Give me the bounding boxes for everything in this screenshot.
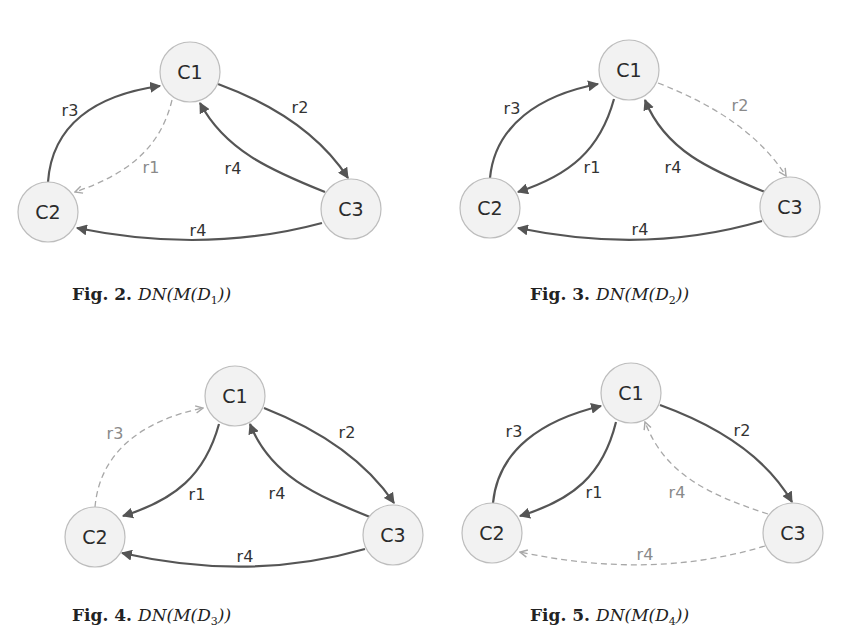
node-c1: C1 — [160, 42, 220, 102]
edge-label: r2 — [292, 98, 309, 117]
node-label: C2 — [477, 197, 502, 219]
caption-math: DN(M(D4)) — [596, 605, 689, 625]
node-label: C1 — [618, 382, 643, 404]
node-label: C3 — [777, 196, 802, 218]
node-label: C3 — [780, 522, 805, 544]
node-label: C2 — [82, 526, 107, 548]
edge-label: r3 — [504, 99, 521, 118]
edge-label: r3 — [107, 424, 124, 443]
caption-math: DN(M(D3)) — [138, 605, 231, 625]
node-c1: C1 — [599, 40, 659, 100]
node-c1: C1 — [601, 363, 661, 423]
figure-fig2: r3r1r2r4r4C1C2C3 — [18, 42, 381, 242]
caption-math-subscript: 2 — [669, 294, 676, 307]
edge-label: r4 — [632, 220, 649, 239]
edge-label: r4 — [669, 483, 686, 502]
node-label: C3 — [380, 524, 405, 546]
node-c2: C2 — [460, 178, 520, 238]
caption-math-subscript: 1 — [211, 294, 218, 307]
node-c2: C2 — [65, 507, 125, 567]
caption-fig4: Fig. 4.DN(M(D3)) — [72, 605, 231, 628]
edge-label: r1 — [189, 485, 206, 504]
edge-label: r4 — [190, 221, 207, 240]
caption-figure-number: Fig. 3. — [530, 284, 590, 304]
edge-label: r3 — [506, 422, 523, 441]
edge-label: r1 — [143, 158, 160, 177]
node-c3: C3 — [321, 179, 381, 239]
edge-r1-c1-to-c2 — [518, 99, 614, 192]
node-label: C2 — [35, 201, 60, 223]
caption-figure-number: Fig. 5. — [530, 605, 590, 625]
node-label: C1 — [616, 59, 641, 81]
caption-math-suffix: )) — [218, 284, 231, 304]
edge-label: r3 — [62, 101, 79, 120]
node-c3: C3 — [760, 177, 820, 237]
caption-math: DN(M(D1)) — [138, 284, 231, 304]
caption-math-subscript: 3 — [211, 615, 218, 628]
node-c3: C3 — [763, 503, 823, 563]
edge-label: r4 — [269, 484, 286, 503]
node-label: C3 — [338, 198, 363, 220]
figure-fig5: r3r1r2r4r4C1C2C3 — [462, 363, 823, 565]
edge-label: r1 — [584, 158, 601, 177]
edge-label: r1 — [586, 483, 603, 502]
node-c2: C2 — [18, 182, 78, 242]
node-c3: C3 — [363, 505, 423, 565]
caption-math-subscript: 4 — [669, 615, 676, 628]
node-label: C1 — [222, 385, 247, 407]
edge-label: r2 — [339, 423, 356, 442]
edge-label: r4 — [237, 547, 254, 566]
caption-fig5: Fig. 5.DN(M(D4)) — [530, 605, 689, 628]
figure-fig3: r3r1r2r4r4C1C2C3 — [460, 40, 820, 240]
caption-math-suffix: )) — [676, 284, 689, 304]
caption-figure-number: Fig. 2. — [72, 284, 132, 304]
caption-math: DN(M(D2)) — [596, 284, 689, 304]
caption-math-prefix: DN(M(D — [138, 284, 211, 304]
caption-fig2: Fig. 2.DN(M(D1)) — [72, 284, 231, 307]
edge-label: r4 — [665, 158, 682, 177]
node-label: C2 — [479, 522, 504, 544]
figure-fig4: r3r1r2r4r4C1C2C3 — [65, 366, 423, 567]
diagram-canvas: r3r1r2r4r4C1C2C3r3r1r2r4r4C1C2C3r3r1r2r4… — [0, 0, 843, 637]
node-c2: C2 — [462, 503, 522, 563]
caption-math-suffix: )) — [218, 605, 231, 625]
caption-math-suffix: )) — [676, 605, 689, 625]
caption-math-prefix: DN(M(D — [596, 284, 669, 304]
caption-figure-number: Fig. 4. — [72, 605, 132, 625]
edge-label: r4 — [225, 159, 242, 178]
edge-label: r2 — [734, 421, 751, 440]
edge-r1-c1-to-c2 — [520, 422, 616, 516]
caption-math-prefix: DN(M(D — [138, 605, 211, 625]
edge-r1-c1-to-c2 — [75, 100, 172, 192]
node-c1: C1 — [205, 366, 265, 426]
edge-label: r2 — [732, 96, 749, 115]
edge-label: r4 — [637, 545, 654, 564]
node-label: C1 — [177, 61, 202, 83]
caption-math-prefix: DN(M(D — [596, 605, 669, 625]
caption-fig3: Fig. 3.DN(M(D2)) — [530, 284, 689, 307]
